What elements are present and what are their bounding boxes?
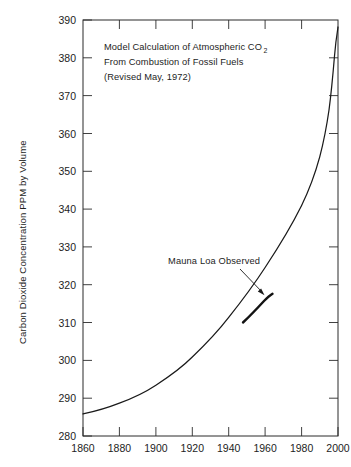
y-tick-label: 330 [58, 241, 76, 253]
x-tick-label: 1880 [108, 442, 132, 454]
y-tick-label: 340 [58, 203, 76, 215]
x-tick-label: 1900 [144, 442, 168, 454]
y-axis-title: Carbon Dioxide Concentration PPM by Volu… [17, 140, 28, 344]
y-tick-label: 320 [58, 279, 76, 291]
y-tick-label: 290 [58, 392, 76, 404]
x-tick-label: 1980 [290, 442, 314, 454]
x-tick-label: 2000 [326, 442, 350, 454]
chart-title-block: Model Calculation of Atmospheric CO 2 Fr… [104, 42, 268, 82]
y-tick-label: 310 [58, 317, 76, 329]
title-line-3: (Revised May, 1972) [104, 72, 191, 82]
x-tick-label: 1960 [253, 442, 277, 454]
y-tick-label: 350 [58, 165, 76, 177]
annotation-label: Mauna Loa Observed [168, 256, 260, 266]
x-axis-tick-labels: 1860 1880 1900 1920 1940 1960 1980 2000 [71, 442, 350, 454]
y-axis-ticks-right [329, 58, 338, 398]
title-line-2: From Combustion of Fossil Fuels [104, 57, 244, 67]
model-calculation-curve [83, 27, 338, 414]
figure-container: 390 380 370 360 350 340 330 320 310 300 … [0, 0, 351, 467]
x-axis-ticks-top [119, 20, 301, 29]
y-tick-label: 360 [58, 128, 76, 140]
y-axis-tick-labels: 390 380 370 360 350 340 330 320 310 300 … [58, 14, 76, 442]
co2-model-chart: 390 380 370 360 350 340 330 320 310 300 … [0, 0, 351, 467]
plot-frame [83, 20, 338, 436]
x-tick-label: 1940 [217, 442, 241, 454]
y-tick-label: 370 [58, 90, 76, 102]
title-line-1: Model Calculation of Atmospheric CO [104, 42, 262, 52]
y-tick-label: 380 [58, 52, 76, 64]
x-tick-label: 1920 [181, 442, 205, 454]
annotation-leader-line [240, 269, 263, 293]
y-tick-label: 300 [58, 354, 76, 366]
y-tick-label: 280 [58, 430, 76, 442]
x-tick-label: 1860 [71, 442, 95, 454]
y-tick-label: 390 [58, 14, 76, 26]
title-subscript: 2 [264, 47, 268, 54]
mauna-loa-observed-curve [243, 294, 273, 323]
y-axis-ticks-left [83, 20, 92, 436]
x-axis-ticks-bottom [83, 427, 338, 436]
annotation-arrowhead [258, 288, 265, 295]
